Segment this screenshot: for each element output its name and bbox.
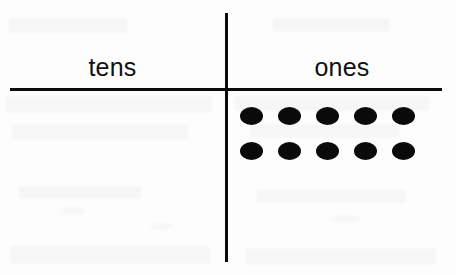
ghost-speck [60,206,86,216]
ghost-speck [150,222,172,231]
counter-dot [392,107,415,125]
counter-dot [354,107,377,125]
ghost-speck [330,214,360,224]
place-value-chart: tens ones [0,0,456,275]
ghost-mark [8,18,128,33]
tens-column-counters [0,0,456,275]
column-heading-ones: ones [228,55,456,80]
ghost-mark [256,190,406,203]
vertical-divider [225,13,228,262]
ghost-mark [234,96,430,111]
counter-dot [278,107,301,125]
horizontal-divider [10,88,442,91]
counter-row [240,142,415,160]
counter-dot [278,142,301,160]
ghost-mark [12,124,188,140]
counter-dot [316,107,339,125]
ghost-mark [272,18,390,32]
ghost-mark [246,248,436,265]
ones-column-counters [0,0,456,275]
counter-dot [392,142,415,160]
column-heading-tens: tens [0,55,225,80]
counter-dot [240,107,263,125]
counter-dot [354,142,377,160]
ghost-mark [18,186,142,199]
ghost-mark [6,96,212,113]
counter-dot [240,142,263,160]
ghost-mark [10,246,210,264]
scan-ghosting-artifacts [0,0,456,275]
ghost-mark [250,124,400,138]
counter-row [240,107,415,125]
counter-dot [316,142,339,160]
